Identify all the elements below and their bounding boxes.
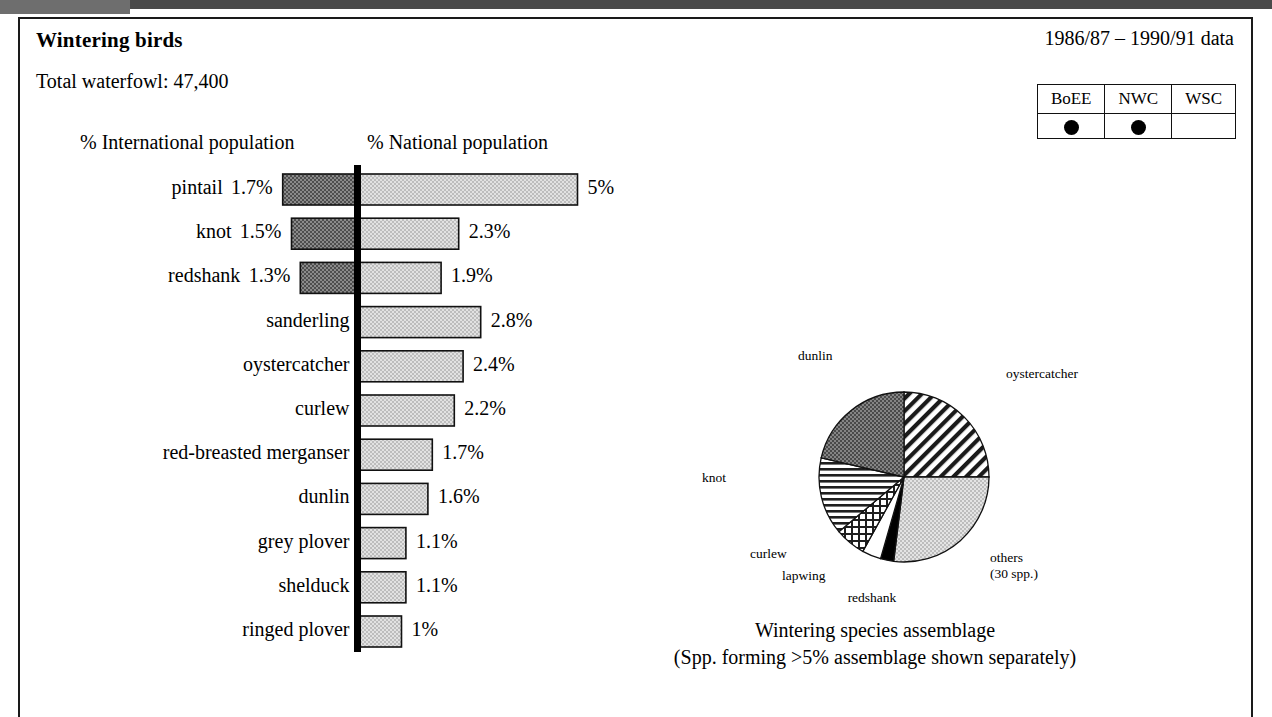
bar-row: red-breasted merganser1.7% (163, 439, 484, 470)
bar-category-label: red-breasted merganser (163, 441, 350, 464)
bar-row: shelduck1.1% (278, 572, 457, 603)
bar-value-national: 5% (588, 176, 615, 198)
pie-slice-others (894, 477, 989, 562)
bar-value-international: 1.7% (231, 176, 273, 198)
designation-table: BoEE NWC WSC (1037, 84, 1236, 139)
pie-label-redshank: redshank (848, 590, 897, 605)
filled-dot-icon (1064, 120, 1079, 135)
bar-category-label: curlew (295, 397, 350, 419)
pie-label-knot: knot (702, 470, 726, 485)
scan-artifact-top (0, 0, 1272, 9)
bar-international (292, 218, 358, 249)
bar-category-label: shelduck (278, 574, 349, 596)
bar-value-national: 1.7% (442, 441, 484, 463)
bar-category-label: dunlin (298, 485, 349, 507)
bar-national (358, 483, 428, 514)
column-header-wsc: WSC (1172, 85, 1236, 114)
axis-label-national: % National population (367, 131, 548, 154)
bar-row: sanderling2.8% (266, 307, 532, 338)
bar-national (358, 351, 464, 382)
bar-national (358, 218, 459, 249)
bar-row: 1.7%pintail5% (172, 174, 615, 205)
bar-international (300, 262, 357, 293)
page-title: Wintering birds (36, 28, 183, 53)
pie-label-oystercatcher: oystercatcher (1006, 366, 1078, 381)
bar-value-national: 2.8% (491, 309, 533, 331)
chart-axis-line (354, 165, 361, 652)
pie-caption-line2: (Spp. forming >5% assemblage shown separ… (575, 644, 1175, 671)
bar-row: curlew2.2% (295, 395, 506, 426)
bar-category-label: sanderling (266, 309, 349, 332)
bar-value-national: 1.1% (416, 574, 458, 596)
column-header-nwc: NWC (1105, 85, 1172, 114)
table-row-marks (1037, 114, 1235, 139)
pie-label-curlew: curlew (750, 546, 787, 561)
mark-cell-nwc (1105, 114, 1172, 139)
table-row-headers: BoEE NWC WSC (1037, 85, 1235, 114)
bar-category-label: ringed plover (242, 618, 350, 641)
column-header-boee: BoEE (1037, 85, 1105, 114)
pie-label-dunlin: dunlin (798, 348, 833, 363)
bar-value-national: 1.1% (416, 530, 458, 552)
bar-row: 1.3%redshank1.9% (168, 262, 493, 293)
pie-caption-line1: Wintering species assemblage (575, 617, 1175, 644)
bar-category-label: grey plover (258, 530, 350, 553)
pie-caption: Wintering species assemblage (Spp. formi… (575, 617, 1175, 671)
bar-national (358, 307, 481, 338)
total-waterfowl-text: Total waterfowl: 47,400 (36, 70, 228, 93)
bar-row: ringed plover1% (242, 616, 438, 647)
bar-value-national: 2.4% (473, 353, 515, 375)
bar-category-label: oystercatcher (243, 353, 350, 376)
bar-row: 1.5%knot2.3% (196, 218, 510, 249)
bar-value-national: 1% (412, 618, 439, 640)
bar-national (358, 262, 442, 293)
pie-label-others: others(30 spp.) (990, 550, 1038, 581)
species-assemblage-pie-chart: oystercatcherothers(30 spp.)redshanklapw… (690, 330, 1150, 620)
bar-national (358, 395, 455, 426)
date-range-text: 1986/87 – 1990/91 data (1045, 27, 1234, 50)
bar-national (358, 174, 578, 205)
filled-dot-icon (1131, 120, 1146, 135)
bar-value-national: 1.6% (438, 485, 480, 507)
bar-national (358, 572, 406, 603)
bar-value-international: 1.5% (240, 220, 282, 242)
mark-cell-boee (1037, 114, 1105, 139)
bar-row: dunlin1.6% (298, 483, 479, 514)
bar-value-international: 1.3% (249, 264, 291, 286)
bar-value-national: 2.3% (469, 220, 511, 242)
pie-label-lapwing: lapwing (782, 568, 826, 583)
bar-row: oystercatcher2.4% (243, 351, 515, 382)
bar-national (358, 439, 433, 470)
bar-value-national: 1.9% (451, 264, 493, 286)
scan-artifact-corner (0, 0, 130, 14)
mark-cell-wsc (1172, 114, 1236, 139)
axis-label-international: % International population (80, 131, 294, 154)
bar-national (358, 528, 406, 559)
bidirectional-bar-chart: 1.7%pintail5%1.5%knot2.3%1.3%redshank1.9… (0, 165, 700, 655)
bar-category-label: pintail (172, 176, 224, 199)
bar-category-label: redshank (168, 264, 240, 286)
bar-international (283, 174, 358, 205)
bar-national (358, 616, 402, 647)
bar-value-national: 2.2% (464, 397, 506, 419)
pie-slice-oystercatcher (904, 392, 989, 477)
bar-category-label: knot (196, 220, 232, 242)
